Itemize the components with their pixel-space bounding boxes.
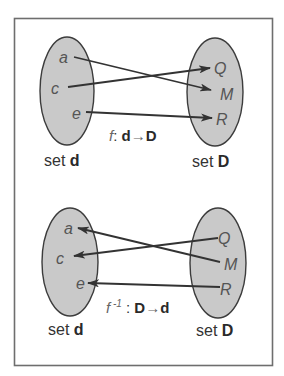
element-e: e <box>76 275 85 292</box>
function-separator: : <box>122 299 135 316</box>
element-M: M <box>220 86 234 103</box>
set-D-ellipse <box>190 208 246 318</box>
element-Q: Q <box>214 60 226 77</box>
function-separator: : <box>113 127 121 144</box>
inverse-superscript: -1 <box>110 298 122 309</box>
function-label-f: f: d→D <box>109 127 157 144</box>
set-D-label: set D <box>196 322 233 339</box>
set-D-name: D <box>222 322 234 339</box>
function-mapping-diagram: a c e Q M R f: d→D set d set D a c e Q M <box>0 0 284 376</box>
set-D-name: D <box>218 153 230 170</box>
set-d-label: set d <box>44 152 80 169</box>
function-to-set: D <box>146 127 157 144</box>
set-D-prefix: set <box>196 322 222 339</box>
element-R: R <box>220 281 232 298</box>
element-R: R <box>216 111 228 128</box>
element-c: c <box>51 80 59 97</box>
function-from-set: D <box>134 299 145 316</box>
set-D-label: set D <box>192 153 229 170</box>
function-from-set: d <box>122 127 131 144</box>
set-D-ellipse <box>187 38 243 146</box>
element-a: a <box>64 220 73 237</box>
maps-to-arrow-icon: → <box>145 299 160 316</box>
element-M: M <box>224 256 238 273</box>
element-a: a <box>59 49 68 66</box>
element-c: c <box>56 250 64 267</box>
maps-to-arrow-icon: → <box>131 127 146 144</box>
element-Q: Q <box>218 230 230 247</box>
set-d-prefix: set <box>48 321 74 338</box>
set-d-label: set d <box>48 321 84 338</box>
set-d-name: d <box>70 152 80 169</box>
set-d-prefix: set <box>44 152 70 169</box>
function-to-set: d <box>160 299 169 316</box>
element-e: e <box>72 105 81 122</box>
set-D-prefix: set <box>192 153 218 170</box>
set-d-name: d <box>74 321 84 338</box>
